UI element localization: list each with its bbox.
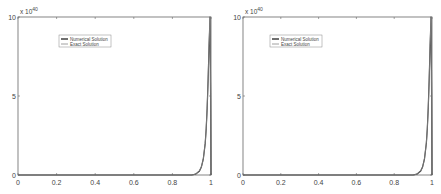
- x-tick-label: 0: [16, 179, 20, 186]
- y-tick-label: 0: [237, 172, 241, 179]
- y-tick-label: 5: [237, 93, 241, 100]
- x-tick-label: 1: [430, 179, 434, 186]
- chart-panel-right: 00.20.40.60.810510x 1040Numerical Soluti…: [221, 0, 441, 194]
- y-tick-label: 10: [233, 14, 241, 21]
- y-exponent-label: x 1040: [245, 6, 263, 15]
- legend-label: Exact Solution: [70, 42, 99, 47]
- y-tick-label: 10: [8, 14, 16, 21]
- chart-right: 00.20.40.60.810510x 1040Numerical Soluti…: [221, 0, 441, 194]
- x-tick-label: 0.4: [314, 179, 324, 186]
- y-exponent-label: x 1040: [20, 6, 38, 15]
- legend-label: Exact Solution: [281, 42, 310, 47]
- x-tick-label: 0.4: [90, 179, 100, 186]
- x-tick-label: 0.8: [389, 179, 399, 186]
- x-tick-label: 0.6: [352, 179, 362, 186]
- y-tick-label: 0: [12, 172, 16, 179]
- x-tick-label: 1: [209, 179, 213, 186]
- chart-panel-left: 00.20.40.60.810510x 1040Numerical Soluti…: [0, 0, 220, 194]
- legend: Numerical SolutionExact Solution: [59, 35, 111, 47]
- x-tick-label: 0.2: [276, 179, 286, 186]
- chart-left: 00.20.40.60.810510x 1040Numerical Soluti…: [0, 0, 220, 194]
- x-tick-label: 0: [241, 179, 245, 186]
- x-tick-label: 0.2: [52, 179, 62, 186]
- axes-box: [18, 17, 211, 175]
- x-tick-label: 0.8: [168, 179, 178, 186]
- x-tick-label: 0.6: [129, 179, 139, 186]
- legend: Numerical SolutionExact Solution: [270, 35, 322, 47]
- y-tick-label: 5: [12, 93, 16, 100]
